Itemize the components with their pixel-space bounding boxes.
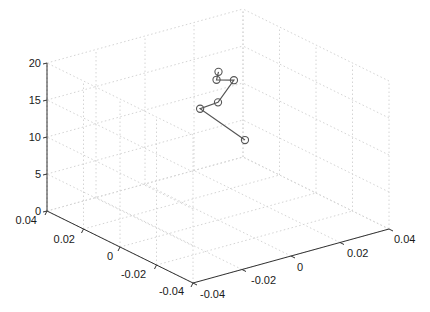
right-axis-tick-label: 0.02 [347, 247, 368, 259]
right-wall-grid-line [243, 9, 389, 81]
z-tick-label: 5 [35, 168, 41, 180]
left-axis-tick-label: 0.04 [16, 214, 37, 226]
left-axis-tick-label: 0 [107, 250, 113, 262]
right-axis-tick-label: -0.04 [200, 288, 225, 300]
y-tick-mark [155, 265, 157, 269]
x-tick-mark [291, 256, 295, 258]
left-axis-tick-label: -0.02 [121, 268, 146, 280]
x-tick-mark [242, 270, 246, 272]
right-axis-tick-label: 0.04 [394, 233, 415, 245]
data-series [197, 68, 249, 143]
tick-labels: 0 5 10 15 20 0.04 0.02 0 -0.02 -0.04 -0.… [16, 57, 416, 300]
z-tick-mark [43, 100, 47, 101]
floor-grid-line [84, 175, 280, 229]
floor-grid-line [145, 184, 291, 256]
z-tick-label: 10 [29, 131, 41, 143]
z-tick-label: 15 [29, 94, 41, 106]
grid-lines [47, 9, 389, 283]
x-tick-mark [193, 283, 197, 285]
y-tick-mark [191, 283, 193, 287]
side-wall-grid-line [47, 63, 193, 135]
right-axis-tick-label: 0 [297, 261, 303, 273]
z-tick-mark [43, 174, 47, 175]
z-tick-mark [43, 137, 47, 138]
y-tick-mark [118, 247, 120, 251]
3d-line-chart: 0 5 10 15 20 0.04 0.02 0 -0.02 -0.04 -0.… [0, 0, 430, 312]
right-axis-tick-label: -0.02 [251, 274, 276, 286]
x-tick-mark [389, 229, 393, 231]
right-wall-grid-line [243, 120, 389, 192]
left-axis-tick-label: -0.04 [159, 285, 184, 297]
left-axis-tick-label: 0.02 [54, 233, 75, 245]
z-tick-label: 20 [29, 57, 41, 69]
floor-grid-line [194, 171, 340, 243]
z-tick-mark [43, 63, 47, 64]
y-tick-mark [82, 229, 84, 233]
floor-grid-line [96, 198, 242, 270]
series-line [200, 72, 245, 140]
x-tick-mark [340, 243, 344, 245]
